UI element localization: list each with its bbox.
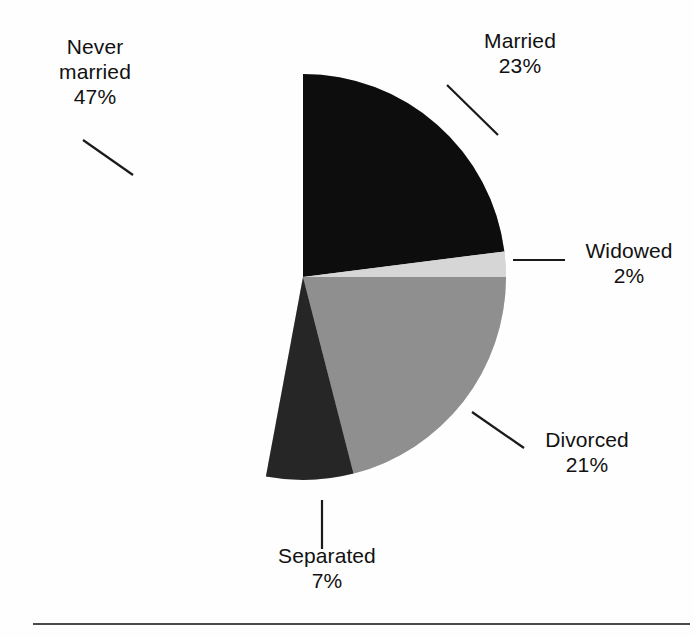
leader-line-divorced [472, 412, 524, 448]
pie-label-separated: Separated 7% [255, 543, 399, 593]
pie-label-separated-percent: 7% [255, 568, 399, 593]
pie-slice-married[interactable] [303, 74, 504, 277]
pie-label-divorced-text: Divorced [520, 427, 654, 452]
leader-line-married [447, 85, 498, 135]
pie-slice-group [266, 74, 506, 480]
pie-label-married-text: Married [455, 28, 585, 53]
pie-label-widowed-text: Widowed [570, 238, 688, 263]
pie-label-widowed: Widowed 2% [570, 238, 688, 288]
pie-label-never-married-line1: Never [20, 34, 170, 59]
bottom-divider-rule [33, 623, 690, 625]
pie-label-never-married: Never married 47% [20, 34, 170, 109]
pie-label-never-married-percent: 47% [20, 84, 170, 109]
pie-label-married: Married 23% [455, 28, 585, 78]
pie-label-never-married-line2: married [20, 59, 170, 84]
pie-label-married-percent: 23% [455, 53, 585, 78]
pie-label-divorced-percent: 21% [520, 452, 654, 477]
pie-label-separated-text: Separated [255, 543, 399, 568]
pie-label-widowed-percent: 2% [570, 263, 688, 288]
leader-line-never-married [83, 140, 133, 175]
pie-chart-figure: Never married 47% Married 23% Widowed 2%… [0, 0, 694, 637]
pie-label-divorced: Divorced 21% [520, 427, 654, 477]
